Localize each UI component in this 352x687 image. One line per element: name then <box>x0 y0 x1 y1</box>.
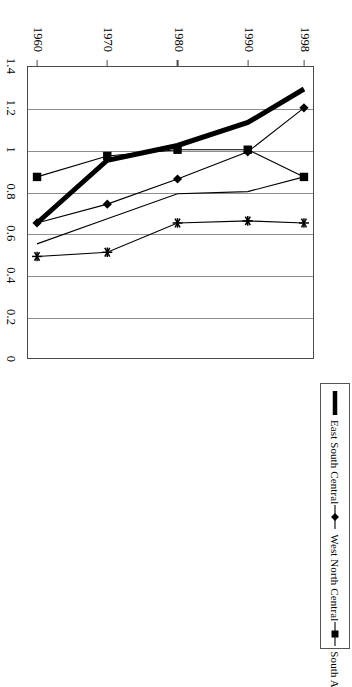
data-point-marker <box>102 247 112 257</box>
legend-item-east-south-central: East South Central <box>328 390 342 504</box>
category-axis-tick <box>36 60 37 66</box>
series-line-south-atlantic <box>37 150 304 177</box>
category-axis-tick-label: 1990 <box>240 27 255 52</box>
legend-label: South Atlantic <box>329 651 341 687</box>
data-point-marker <box>33 173 41 181</box>
data-point-marker <box>103 200 112 209</box>
chart-legend: East South Central West North Central So… <box>320 383 350 649</box>
value-axis-tick-label: 1.4 <box>3 58 18 74</box>
legend-label: East South Central <box>329 420 341 504</box>
series-layer <box>27 66 314 359</box>
data-point-marker <box>173 218 183 228</box>
data-point-marker <box>32 252 42 262</box>
category-axis-tick-label: 1998 <box>296 27 311 52</box>
data-point-marker <box>173 146 181 154</box>
category-axis-tick-label: 1980 <box>170 27 185 52</box>
series-line-east-south-central <box>37 89 304 223</box>
category-axis-tick <box>247 60 248 66</box>
data-point-marker <box>173 174 182 183</box>
data-point-marker <box>299 218 309 228</box>
value-axis-tick-label: 0 <box>3 356 18 362</box>
category-axis-tick <box>107 60 108 66</box>
value-axis-tick-label: 1.2 <box>3 100 18 116</box>
category-axis-tick <box>177 60 178 66</box>
category-axis-tick <box>303 60 304 66</box>
value-axis-labels: 1.41.210.80.60.40.20 <box>0 66 22 359</box>
data-point-marker <box>244 146 252 154</box>
value-axis-tick-label: 0.4 <box>3 267 18 283</box>
square-line-key-icon <box>328 621 342 647</box>
category-axis-tick-label: 1970 <box>100 27 115 52</box>
value-axis-tick-label: 0.6 <box>3 225 18 241</box>
thick-line-key-icon <box>328 390 342 416</box>
legend-item-west-north-central: West North Central <box>328 504 342 621</box>
value-axis-tick-label: 0.8 <box>3 183 18 199</box>
rotated-chart-canvas: East South Central West North Central So… <box>0 0 352 687</box>
series-line-mountain <box>37 221 304 257</box>
value-axis-tick-label: 1 <box>3 146 18 152</box>
category-axis-tick-label: 1960 <box>30 27 45 52</box>
diamond-line-key-icon <box>328 504 342 530</box>
value-axis-tick-label: 0.2 <box>3 309 18 325</box>
legend-label: West North Central <box>329 534 341 621</box>
data-point-marker <box>103 152 111 160</box>
data-point-marker <box>243 216 253 226</box>
legend-item-south-atlantic: South Atlantic <box>328 621 342 687</box>
category-axis-labels: 19601970198019901998 <box>27 0 314 62</box>
